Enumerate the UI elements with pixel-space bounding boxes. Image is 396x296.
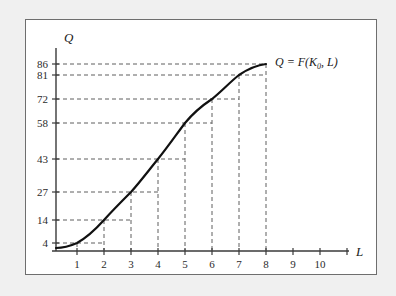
xtick-label-9: 9 — [290, 258, 296, 270]
curve-annotation-tail: , L) — [321, 55, 338, 69]
vertical-gridlines — [77, 64, 266, 250]
ytick-label-4: 4 — [43, 237, 49, 249]
ytick-label-81: 81 — [37, 69, 48, 81]
xtick-label-6: 6 — [209, 258, 215, 270]
ytick-label-72: 72 — [37, 93, 48, 105]
curve-annotation: Q = F(K0, L) — [275, 55, 338, 71]
x-tick-labels: 1 2 3 4 5 6 7 8 9 10 — [74, 258, 326, 270]
xtick-label-8: 8 — [263, 258, 269, 270]
xtick-label-3: 3 — [128, 258, 134, 270]
xtick-label-1: 1 — [74, 258, 80, 270]
ytick-label-43: 43 — [37, 153, 49, 165]
xtick-label-4: 4 — [155, 258, 161, 270]
y-tick-labels: 86 81 72 58 43 27 14 4 — [37, 58, 49, 249]
curve-annotation-main: Q = F(K — [275, 55, 318, 69]
ytick-label-58: 58 — [37, 117, 49, 129]
xtick-label-10: 10 — [315, 258, 327, 270]
ytick-label-27: 27 — [37, 186, 49, 198]
x-axis-label: L — [355, 244, 363, 259]
xtick-label-7: 7 — [236, 258, 242, 270]
xtick-label-5: 5 — [182, 258, 188, 270]
figure-frame: 86 81 72 58 43 27 14 4 1 2 3 4 5 6 7 8 9… — [25, 19, 377, 275]
ytick-label-14: 14 — [37, 214, 49, 226]
production-function-chart: 86 81 72 58 43 27 14 4 1 2 3 4 5 6 7 8 9… — [26, 20, 378, 276]
xtick-label-2: 2 — [101, 258, 107, 270]
y-axis-label: Q — [64, 30, 74, 45]
